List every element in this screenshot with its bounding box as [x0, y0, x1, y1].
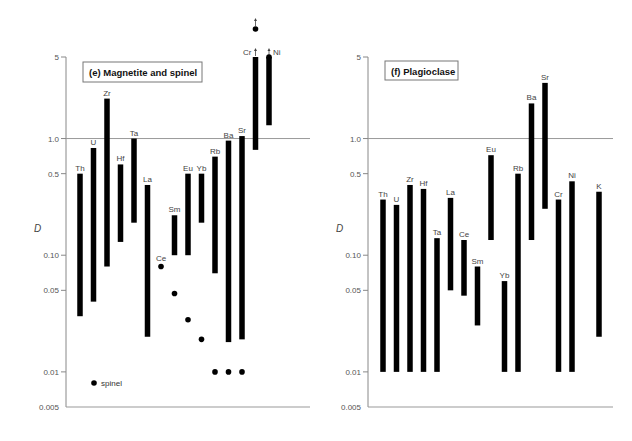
- bar-eu: [185, 174, 191, 256]
- element-label-hf: Hf: [420, 179, 429, 188]
- y-tick-label: 1.0: [350, 135, 362, 144]
- element-label-u: U: [91, 138, 97, 147]
- y-tick-label: 1.0: [48, 135, 60, 144]
- y-tick-label: 5: [357, 53, 362, 62]
- arrow-head-icon: [254, 48, 257, 51]
- element-label-th: Th: [75, 164, 84, 173]
- bar-hf: [118, 164, 124, 241]
- bar-ta: [131, 139, 137, 223]
- bar-yb: [502, 281, 508, 372]
- bar-u: [394, 205, 400, 372]
- element-label-ta: Ta: [433, 228, 442, 237]
- element-label-th: Th: [378, 190, 387, 199]
- legend-label: spinel: [101, 379, 122, 388]
- chart-panel-magnetite-spinel: 51.00.50.100.050.010.005D(e) Magnetite a…: [34, 18, 310, 412]
- element-label-ta: Ta: [130, 129, 139, 138]
- y-tick-label: 0.005: [341, 403, 362, 412]
- chart-title: (f) Plagioclase: [391, 66, 455, 77]
- bar-zr: [407, 185, 413, 372]
- element-label-yb: Yb: [197, 164, 207, 173]
- arrow-head-icon: [254, 18, 257, 21]
- element-label-eu: Eu: [183, 164, 193, 173]
- element-label-sm: Sm: [472, 257, 484, 266]
- bar-yb: [199, 174, 205, 223]
- y-axis-label: D: [336, 223, 343, 234]
- bar-sr: [542, 83, 548, 209]
- bar-rb: [212, 157, 218, 274]
- chart-figure: 51.00.50.100.050.010.005D(e) Magnetite a…: [0, 0, 632, 441]
- spinel-point-ni: [266, 54, 272, 60]
- spinel-point-sr: [239, 369, 245, 375]
- element-label-zr: Zr: [406, 175, 414, 184]
- bar-ni: [266, 57, 272, 125]
- bar-sm: [475, 267, 481, 326]
- element-label-sr: Sr: [541, 73, 549, 82]
- spinel-point-ba: [226, 369, 232, 375]
- element-label-sm: Sm: [169, 205, 181, 214]
- bar-hf: [421, 189, 427, 372]
- element-label-ce: Ce: [459, 230, 470, 239]
- y-tick-label: 5: [55, 53, 60, 62]
- element-label-cr: Cr: [554, 190, 563, 199]
- element-label-rb: Rb: [210, 147, 221, 156]
- legend-marker-dot: [91, 380, 97, 386]
- bar-th: [77, 174, 83, 317]
- y-tick-label: 0.5: [350, 170, 362, 179]
- chart-title: (e) Magnetite and spinel: [89, 67, 197, 78]
- y-tick-label: 0.01: [345, 368, 361, 377]
- bar-la: [448, 198, 454, 290]
- y-tick-label: 0.10: [43, 251, 59, 260]
- bar-th: [380, 200, 386, 372]
- y-tick-label: 0.01: [43, 368, 59, 377]
- spinel-point-ce: [158, 264, 164, 270]
- element-label-hf: Hf: [117, 154, 126, 163]
- arrow-head-icon: [268, 48, 271, 51]
- bar-sr: [239, 136, 245, 339]
- bar-cr: [556, 200, 562, 372]
- bar-u: [91, 148, 97, 302]
- y-axis-label: D: [34, 223, 41, 234]
- bar-eu: [488, 155, 494, 240]
- element-label-ba: Ba: [527, 93, 537, 102]
- bar-ce: [461, 240, 467, 296]
- y-tick-label: 0.5: [48, 170, 60, 179]
- spinel-point-sm: [172, 291, 178, 297]
- bar-rb: [515, 174, 521, 372]
- spinel-point-cr: [253, 26, 259, 32]
- element-label-la: La: [446, 188, 455, 197]
- element-label-ni: Ni: [273, 48, 281, 57]
- bar-ba: [529, 103, 535, 240]
- element-label-eu: Eu: [486, 145, 496, 154]
- bar-ba: [226, 141, 232, 342]
- element-label-sr: Sr: [238, 126, 246, 135]
- bar-sm: [172, 215, 178, 255]
- element-label-la: La: [143, 175, 152, 184]
- spinel-point-eu: [185, 317, 191, 323]
- spinel-point-rb: [212, 369, 218, 375]
- y-tick-label: 0.005: [39, 403, 60, 412]
- element-label-ba: Ba: [224, 131, 234, 140]
- bar-ni: [569, 181, 575, 372]
- bar-zr: [104, 99, 110, 267]
- element-label-k: K: [596, 182, 602, 191]
- element-label-ce: Ce: [156, 254, 167, 263]
- bar-cr: [253, 57, 259, 150]
- y-tick-label: 0.05: [43, 286, 59, 295]
- y-tick-label: 0.10: [345, 251, 361, 260]
- element-label-ni: Ni: [568, 171, 576, 180]
- y-tick-label: 0.05: [345, 286, 361, 295]
- bar-la: [145, 185, 151, 337]
- element-label-u: U: [394, 195, 400, 204]
- element-label-yb: Yb: [500, 271, 510, 280]
- element-label-zr: Zr: [103, 89, 111, 98]
- bar-ta: [434, 238, 440, 372]
- element-label-rb: Rb: [513, 164, 524, 173]
- spinel-point-yb: [199, 337, 205, 343]
- chart-panel-plagioclase: 51.00.50.100.050.010.005D(f) Plagioclase…: [336, 53, 613, 412]
- bar-k: [596, 192, 602, 337]
- element-label-cr: Cr: [243, 48, 252, 57]
